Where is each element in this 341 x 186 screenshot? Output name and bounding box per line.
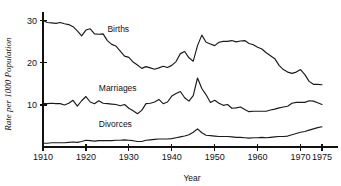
series-line-divorces [43, 127, 322, 143]
series-line-births [43, 20, 322, 84]
series-label-divorces: Divorces [99, 119, 132, 129]
x-tick-label: 1930 [119, 152, 139, 162]
series-label-births: Births [107, 24, 129, 34]
line-chart: 10203019101920193019401950196019701975 B… [0, 0, 341, 186]
chart-container: 10203019101920193019401950196019701975 B… [0, 0, 341, 186]
y-tick-label: 30 [27, 16, 37, 26]
y-tick-label: 20 [27, 58, 37, 68]
x-tick-label: 1920 [76, 152, 96, 162]
x-tick-label: 1975 [312, 152, 332, 162]
x-axis-title: Year [183, 173, 200, 183]
tick-marks [40, 21, 323, 151]
data-series [43, 20, 322, 143]
series-line-marriages [43, 78, 322, 114]
x-tick-label: 1940 [162, 152, 182, 162]
series-labels: BirthsMarriagesDivorces [99, 24, 137, 129]
series-label-marriages: Marriages [99, 83, 137, 93]
x-tick-label: 1960 [248, 152, 268, 162]
y-axis-title: Rate per 1000 Population [3, 37, 13, 132]
tick-labels: 10203019101920193019401950196019701975 [27, 16, 332, 162]
y-tick-label: 10 [27, 100, 37, 110]
axes [43, 12, 338, 147]
x-tick-label: 1950 [205, 152, 225, 162]
x-tick-label: 1910 [33, 152, 53, 162]
x-tick-label: 1970 [291, 152, 311, 162]
